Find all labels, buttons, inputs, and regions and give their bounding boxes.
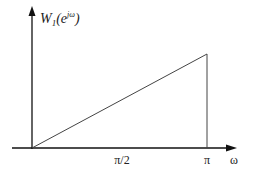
x-tick-label-pi-over-2: π/2 bbox=[114, 153, 129, 167]
response-curve bbox=[32, 54, 207, 148]
x-tick-label-pi: π bbox=[204, 153, 210, 167]
y-axis-arrow-icon bbox=[29, 6, 36, 16]
frequency-response-diagram: W1(ejω) π/2 π ω bbox=[0, 0, 254, 172]
y-axis-label: W1(ejω) bbox=[40, 10, 80, 28]
x-axis-label: ω bbox=[230, 153, 238, 167]
x-axis-arrow-icon bbox=[226, 145, 237, 152]
